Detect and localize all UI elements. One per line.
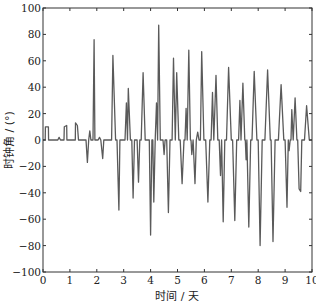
clock-angle-line <box>43 25 312 245</box>
y-tick-label: −40 <box>19 187 41 199</box>
x-tick-label: 7 <box>228 274 235 286</box>
y-tick-label: 80 <box>28 28 41 40</box>
y-tick-label: 100 <box>21 2 41 14</box>
x-tick-label: 9 <box>282 274 289 286</box>
x-axis-title: 时间 / 天 <box>155 290 199 303</box>
y-tick-label: 60 <box>28 55 41 67</box>
y-tick-label: 20 <box>28 108 41 120</box>
x-tick-label: 1 <box>67 274 74 286</box>
x-tick-label: 5 <box>174 274 181 286</box>
y-tick-label: 0 <box>34 134 41 146</box>
clock-angle-chart: 012345678910 −100−80−60−40−2002040608010… <box>0 0 316 306</box>
x-tick-label: 2 <box>93 274 100 286</box>
x-tick-label: 4 <box>147 274 154 286</box>
y-tick-label: −80 <box>19 240 41 252</box>
x-tick-label: 3 <box>120 274 127 286</box>
y-axis-title: 时钟角 / (°) <box>2 111 16 169</box>
y-tick-label: −20 <box>19 160 41 172</box>
y-tick-label: −100 <box>12 266 41 278</box>
y-tick-label: −60 <box>19 213 41 225</box>
x-tick-label: 6 <box>201 274 208 286</box>
x-tick-label: 10 <box>305 274 316 286</box>
x-tick-label: 8 <box>255 274 262 286</box>
y-tick-label: 40 <box>28 81 41 93</box>
series-line-0 <box>43 25 312 245</box>
